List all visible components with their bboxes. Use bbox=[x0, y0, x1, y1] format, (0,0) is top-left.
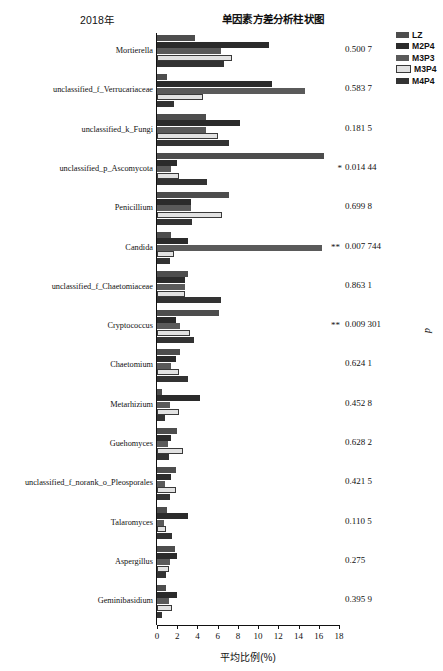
bar-m4p4 bbox=[157, 612, 162, 618]
p-value: 0.624 1 bbox=[345, 358, 372, 368]
bar-m3p3 bbox=[157, 363, 171, 369]
bar-m4p4 bbox=[157, 140, 229, 146]
bar-m4p4 bbox=[157, 376, 188, 382]
bar-m2p4 bbox=[157, 277, 185, 283]
bar-lz bbox=[157, 467, 176, 473]
legend-label: M4P4 bbox=[412, 76, 434, 86]
significance-marker: ** bbox=[318, 242, 340, 252]
bar-m4p4 bbox=[157, 454, 169, 460]
bar-m4p4 bbox=[157, 258, 170, 264]
taxon-label: Candida bbox=[0, 243, 153, 252]
taxon-label: unclassified_k_Fungi bbox=[0, 125, 153, 134]
taxon-label: unclassified_f_Chaetomiaceae bbox=[0, 282, 153, 291]
bar-m3p4 bbox=[157, 291, 185, 297]
p-value: 0.110 5 bbox=[345, 516, 372, 526]
x-tick bbox=[197, 625, 198, 629]
bar-m2p4 bbox=[157, 120, 240, 126]
bar-m2p4 bbox=[157, 356, 176, 362]
bar-m3p4 bbox=[157, 212, 222, 218]
bar-lz bbox=[157, 153, 324, 159]
x-tick bbox=[278, 625, 279, 629]
p-value: 0.421 5 bbox=[345, 476, 372, 486]
p-value: 0.500 7 bbox=[345, 44, 372, 54]
p-value: 0.583 7 bbox=[345, 83, 372, 93]
bar-m3p4 bbox=[157, 526, 166, 532]
bar-lz bbox=[157, 114, 206, 120]
bar-m2p4 bbox=[157, 42, 269, 48]
bar-m3p4 bbox=[157, 487, 176, 493]
taxon-label: unclassified_f_Verrucariaceae bbox=[0, 85, 153, 94]
legend-label: M2P4 bbox=[412, 41, 434, 51]
legend-item[interactable]: M3P4 bbox=[396, 64, 436, 76]
taxon-label: Mortierella bbox=[0, 46, 153, 55]
bar-lz bbox=[157, 585, 166, 591]
bar-m3p3 bbox=[157, 166, 171, 172]
legend-item[interactable]: LZ bbox=[396, 29, 436, 41]
bar-m3p3 bbox=[157, 127, 206, 133]
bar-m3p4 bbox=[157, 409, 179, 415]
p-value: 0.009 301 bbox=[345, 319, 381, 329]
bar-m3p4 bbox=[157, 133, 218, 139]
x-tick-label: 2 bbox=[175, 631, 180, 641]
bar-m4p4 bbox=[157, 179, 207, 185]
p-value: 0.014 44 bbox=[345, 162, 377, 172]
legend-item[interactable]: M3P3 bbox=[396, 52, 436, 64]
bar-m4p4 bbox=[157, 415, 165, 421]
x-tick bbox=[339, 625, 340, 629]
taxon-label: Metarhizium bbox=[0, 400, 153, 409]
bar-m3p3 bbox=[157, 520, 164, 526]
legend-item[interactable]: M4P4 bbox=[396, 75, 436, 87]
p-value: 0.275 bbox=[345, 555, 365, 565]
bar-m2p4 bbox=[157, 435, 171, 441]
x-axis-line bbox=[157, 625, 339, 626]
legend-item[interactable]: M2P4 bbox=[396, 41, 436, 53]
x-tick-label: 12 bbox=[274, 631, 283, 641]
x-tick bbox=[177, 625, 178, 629]
taxon-label: Aspergillus bbox=[0, 557, 153, 566]
bar-m3p4 bbox=[157, 369, 179, 375]
legend-label: M3P4 bbox=[414, 64, 436, 74]
bar-lz bbox=[157, 389, 162, 395]
x-tick-label: 0 bbox=[155, 631, 160, 641]
x-tick bbox=[319, 625, 320, 629]
p-value: 0.007 744 bbox=[345, 241, 381, 251]
bar-m3p4 bbox=[157, 566, 169, 572]
x-tick-label: 14 bbox=[294, 631, 303, 641]
legend-swatch-icon bbox=[396, 55, 409, 61]
bar-m3p3 bbox=[157, 205, 191, 211]
x-tick-label: 4 bbox=[195, 631, 200, 641]
bar-m2p4 bbox=[157, 395, 200, 401]
bar-m3p3 bbox=[157, 441, 168, 447]
p-value: 0.181 5 bbox=[345, 123, 372, 133]
bar-lz bbox=[157, 428, 177, 434]
taxon-label: unclassified_p_Ascomycota bbox=[0, 164, 153, 173]
bar-lz bbox=[157, 349, 180, 355]
taxon-label: Penicillium bbox=[0, 203, 153, 212]
bar-m3p4 bbox=[157, 94, 203, 100]
legend-swatch-icon bbox=[396, 43, 409, 49]
taxon-label: unclassified_f_norank_o_Pleosporales bbox=[0, 478, 153, 487]
legend-swatch-icon bbox=[396, 65, 411, 73]
x-tick bbox=[218, 625, 219, 629]
bar-lz bbox=[157, 35, 195, 41]
bar-m2p4 bbox=[157, 553, 177, 559]
p-value: 0.863 1 bbox=[345, 280, 372, 290]
bar-m2p4 bbox=[157, 160, 177, 166]
bar-m3p3 bbox=[157, 402, 170, 408]
year-label: 2018年 bbox=[80, 12, 114, 27]
bar-m4p4 bbox=[157, 101, 174, 107]
legend-label: LZ bbox=[412, 30, 423, 40]
bar-m4p4 bbox=[157, 219, 192, 225]
bar-lz bbox=[157, 310, 219, 316]
p-value: 0.452 8 bbox=[345, 398, 372, 408]
bar-lz bbox=[157, 192, 229, 198]
x-tick-label: 16 bbox=[314, 631, 323, 641]
legend-swatch-icon bbox=[396, 32, 409, 38]
x-tick bbox=[157, 625, 158, 629]
bar-m2p4 bbox=[157, 199, 191, 205]
taxon-label: Guehomyces bbox=[0, 439, 153, 448]
bar-m3p4 bbox=[157, 330, 190, 336]
bar-m4p4 bbox=[157, 61, 224, 67]
significance-marker: ** bbox=[318, 320, 340, 330]
p-axis-label: p bbox=[421, 328, 432, 333]
